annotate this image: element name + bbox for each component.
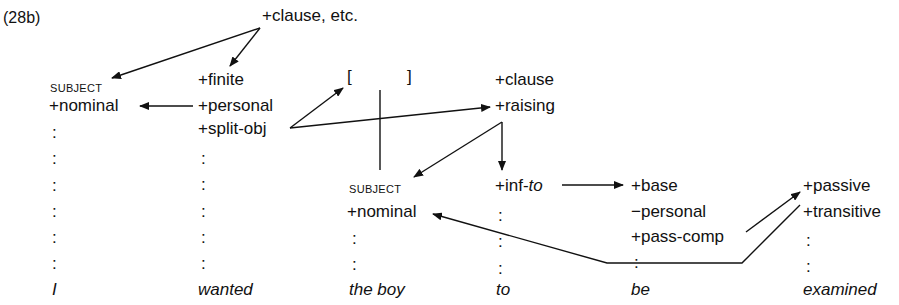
feature-base: +base bbox=[631, 177, 678, 195]
diagram-28b: (28b) +clause, etc. SUBJECT +nominal : :… bbox=[0, 0, 899, 305]
root-features: +clause, etc. bbox=[262, 7, 358, 25]
feature-raising: +raising bbox=[495, 97, 555, 115]
word-the-boy: the boy bbox=[349, 281, 405, 299]
word-be: be bbox=[631, 281, 650, 299]
word-examined: examined bbox=[803, 281, 877, 299]
bracket-close: ] bbox=[407, 68, 412, 86]
feature-nominal-i: +nominal bbox=[49, 97, 118, 115]
word-to: to bbox=[496, 281, 510, 299]
feature-nominal-the-boy: +nominal bbox=[347, 203, 416, 221]
feature-personal: +personal bbox=[198, 97, 273, 115]
arrow-splitobj-to-raising bbox=[290, 107, 490, 128]
ellipsis-column-to: : : : bbox=[498, 203, 503, 282]
feature-passive: +passive bbox=[803, 177, 871, 195]
feature-split-obj: +split-obj bbox=[198, 120, 267, 138]
subject-label-the-boy: SUBJECT bbox=[349, 180, 401, 198]
example-label: (28b) bbox=[3, 9, 40, 27]
feature-finite: +finite bbox=[198, 71, 244, 89]
arrow-splitobj-to-bracket bbox=[290, 88, 343, 128]
ellipsis-column-be: : bbox=[634, 254, 639, 272]
ellipsis-column-i: : : : : : : bbox=[52, 120, 57, 278]
feature-transitive: +transitive bbox=[803, 203, 881, 221]
arrow-transitive-to-nominal bbox=[433, 205, 800, 263]
arrow-raising-to-subject bbox=[414, 122, 502, 177]
ellipsis-column-the-boy: : : bbox=[352, 226, 357, 279]
ellipsis-column-wanted: : : : : : bbox=[201, 146, 206, 277]
feature-inf-to-italic: to bbox=[529, 176, 543, 195]
feature-inf-prefix: +inf- bbox=[495, 176, 529, 195]
word-i: I bbox=[52, 281, 57, 299]
feature-pass-comp: +pass-comp bbox=[631, 228, 724, 246]
subject-label-i: SUBJECT bbox=[50, 79, 102, 97]
word-wanted: wanted bbox=[198, 281, 253, 299]
feature-inf-to: +inf-to bbox=[495, 177, 543, 195]
arrow-layer bbox=[0, 0, 899, 305]
bracket-open: [ bbox=[347, 68, 352, 86]
arrow-passcomp-to-passive bbox=[746, 192, 800, 232]
feature-minus-personal: −personal bbox=[631, 203, 706, 221]
ellipsis-column-examined: : : bbox=[806, 228, 811, 281]
feature-clause: +clause bbox=[495, 71, 554, 89]
